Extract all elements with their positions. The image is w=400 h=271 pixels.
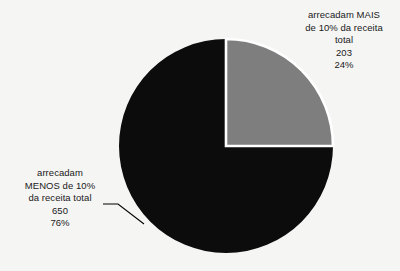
slice-label-mais-line3: total [288,34,400,47]
slice-label-menos-percent: 76% [5,217,115,230]
slice-label-mais-line1: arrecadam MAIS [288,9,400,22]
slice-label-mais-value: 203 [288,47,400,60]
slice-label-menos: arrecadam MENOS de 10% da receita total … [5,167,115,230]
slice-label-menos-line3: da receita total [5,192,115,205]
slice-label-mais-percent: 24% [288,59,400,72]
slice-label-mais: arrecadam MAIS de 10% da receita total 2… [288,9,400,72]
slice-label-menos-line1: arrecadam [5,167,115,180]
slice-label-menos-line2: MENOS de 10% [5,180,115,193]
slice-label-menos-value: 650 [5,205,115,218]
slice-label-mais-line2: de 10% da receita [288,22,400,35]
pie-chart: arrecadam MAIS de 10% da receita total 2… [0,0,400,271]
